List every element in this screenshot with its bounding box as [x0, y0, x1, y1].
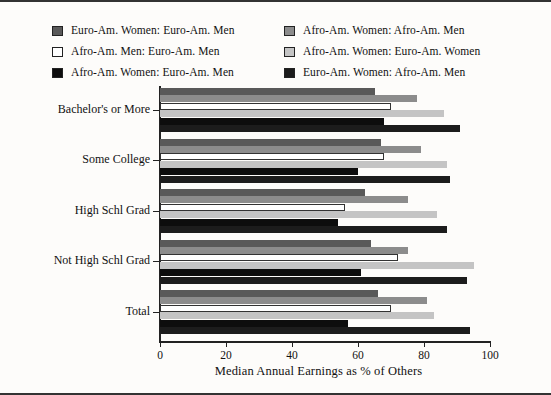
legend-item: Euro-Am. Women: Afro-Am. Men — [284, 64, 480, 82]
legend-item: Afro-Am. Women: Afro-Am. Men — [284, 22, 480, 40]
x-axis-tick-label: 20 — [220, 349, 232, 361]
x-axis-tick-label: 100 — [481, 349, 498, 361]
bar — [160, 161, 447, 168]
x-axis-tick-label: 80 — [418, 349, 430, 361]
bar — [160, 269, 361, 276]
bar — [160, 262, 474, 269]
bar — [160, 88, 375, 95]
bar — [160, 320, 348, 327]
x-axis-tick-label: 0 — [157, 349, 163, 361]
bar — [160, 247, 408, 254]
y-axis-tick — [153, 312, 160, 313]
legend-item-label: Euro-Am. Women: Afro-Am. Men — [303, 67, 465, 79]
x-axis-tick — [226, 342, 227, 347]
legend-column-left: Euro-Am. Women: Euro-Am. Men Afro-Am. Me… — [52, 22, 235, 85]
legend-item: Euro-Am. Women: Euro-Am. Men — [52, 22, 235, 40]
legend-item-label: Afro-Am. Women: Euro-Am. Women — [303, 46, 480, 58]
legend-item-label: Afro-Am. Men: Euro-Am. Men — [71, 46, 220, 58]
legend-item: Afro-Am. Men: Euro-Am. Men — [52, 43, 235, 61]
bar — [160, 168, 358, 175]
bar — [160, 146, 421, 153]
y-category-label: Bachelor's or More — [0, 102, 162, 117]
legend-item: Afro-Am. Women: Euro-Am. Women — [284, 43, 480, 61]
x-axis-tick — [358, 342, 359, 347]
bar — [160, 211, 437, 218]
bar — [160, 118, 384, 125]
legend-swatch-icon — [52, 47, 63, 57]
legend-swatch-icon — [52, 68, 63, 78]
x-axis-tick — [490, 342, 491, 347]
bar — [160, 312, 434, 319]
chart-legend: Euro-Am. Women: Euro-Am. Men Afro-Am. Me… — [0, 22, 551, 84]
bar — [160, 176, 450, 183]
legend-swatch-icon — [284, 68, 295, 78]
legend-swatch-icon — [284, 26, 295, 36]
legend-swatch-icon — [52, 26, 63, 36]
bar — [160, 125, 460, 132]
bar — [160, 189, 365, 196]
bar — [160, 290, 378, 297]
bar — [160, 219, 338, 226]
x-axis-line — [159, 341, 491, 343]
bar — [160, 153, 384, 160]
figure-frame: Euro-Am. Women: Euro-Am. Men Afro-Am. Me… — [0, 0, 551, 395]
bar — [160, 327, 470, 334]
x-axis-tick-label: 60 — [352, 349, 364, 361]
bar — [160, 240, 371, 247]
bar — [160, 297, 427, 304]
legend-item-label: Afro-Am. Women: Euro-Am. Men — [71, 67, 234, 79]
x-axis-title-text: Median Annual Earnings as % of Others — [215, 364, 423, 379]
bar — [160, 277, 467, 284]
x-axis-title: Median Annual Earnings as % of Others — [0, 364, 551, 379]
y-axis-tick — [153, 211, 160, 212]
bar — [160, 95, 417, 102]
x-axis-tick — [424, 342, 425, 347]
legend-swatch-icon — [284, 47, 295, 57]
y-axis-tick — [153, 261, 160, 262]
legend-column-right: Afro-Am. Women: Afro-Am. Men Afro-Am. Wo… — [284, 22, 480, 85]
bar — [160, 226, 447, 233]
legend-item-label: Euro-Am. Women: Euro-Am. Men — [71, 25, 235, 37]
bar — [160, 110, 444, 117]
x-axis-tick-label: 40 — [286, 349, 298, 361]
y-category-label: Total — [0, 304, 162, 319]
y-axis-tick — [153, 160, 160, 161]
bar — [160, 254, 398, 261]
bar — [160, 103, 391, 110]
x-axis-tick — [292, 342, 293, 347]
bar — [160, 196, 408, 203]
y-category-label: High Schl Grad — [0, 203, 162, 218]
legend-item: Afro-Am. Women: Euro-Am. Men — [52, 64, 235, 82]
y-category-label: Some College — [0, 152, 162, 167]
bar — [160, 204, 345, 211]
legend-item-label: Afro-Am. Women: Afro-Am. Men — [303, 25, 465, 37]
y-axis-tick — [153, 110, 160, 111]
y-category-label: Not High Schl Grad — [0, 253, 162, 268]
x-axis-tick — [160, 342, 161, 347]
bar — [160, 139, 381, 146]
bar — [160, 305, 391, 312]
